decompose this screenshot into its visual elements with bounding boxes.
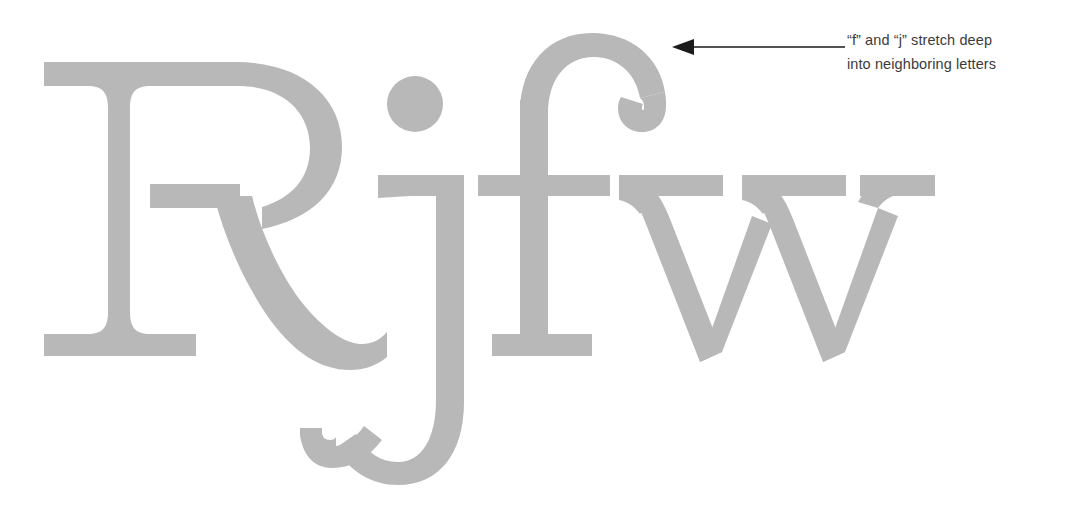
callout-annotation: “f” and “j” stretch deep into neighborin… xyxy=(660,22,1070,92)
callout-line-2: into neighboring letters xyxy=(847,52,1067,76)
specimen-canvas: “f” and “j” stretch deep into neighborin… xyxy=(0,0,1080,507)
glyph-j xyxy=(300,76,464,485)
callout-arrow-icon xyxy=(660,22,860,72)
callout-text-block: “f” and “j” stretch deep into neighborin… xyxy=(847,28,1067,76)
callout-line-1: “f” and “j” stretch deep xyxy=(847,28,1067,52)
glyph-w xyxy=(619,175,935,362)
glyph-R xyxy=(44,62,387,370)
glyph-f xyxy=(478,33,666,356)
